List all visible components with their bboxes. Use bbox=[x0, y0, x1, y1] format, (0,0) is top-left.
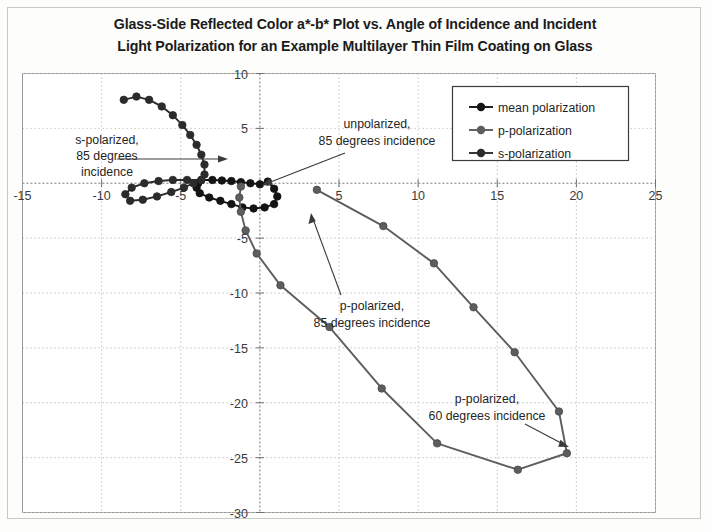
annotation-unpolarized-85-line2: 85 degrees incidence bbox=[319, 134, 436, 148]
data-point bbox=[168, 188, 176, 196]
chart-figure: Glass-Side Reflected Color a*-b* Plot vs… bbox=[0, 0, 712, 532]
data-point bbox=[205, 194, 213, 202]
data-point bbox=[179, 121, 187, 128]
x-tick-label: 20 bbox=[569, 189, 583, 203]
data-point bbox=[380, 222, 388, 230]
y-tick-label: -15 bbox=[230, 342, 248, 356]
data-point bbox=[237, 183, 245, 191]
data-point bbox=[253, 250, 261, 257]
x-tick-label: 15 bbox=[490, 189, 504, 203]
x-tick-label: 10 bbox=[411, 189, 425, 203]
y-tick-label: 5 bbox=[241, 122, 248, 136]
data-point bbox=[511, 349, 519, 357]
data-point bbox=[270, 200, 278, 208]
annotation-s-pol-85-line1: s-polarized, bbox=[75, 133, 139, 147]
data-point bbox=[198, 151, 206, 159]
data-point bbox=[201, 161, 209, 169]
data-point bbox=[250, 205, 257, 213]
data-point bbox=[555, 408, 563, 416]
legend-marker-dot bbox=[477, 149, 485, 157]
data-point bbox=[190, 180, 198, 188]
data-point bbox=[122, 190, 130, 198]
data-point bbox=[261, 204, 269, 212]
legend-marker-dot bbox=[477, 126, 485, 134]
legend-marker-dot bbox=[477, 103, 485, 111]
data-point bbox=[133, 93, 141, 101]
data-point bbox=[228, 200, 236, 208]
data-point bbox=[313, 186, 321, 194]
data-point bbox=[169, 111, 177, 119]
y-tick-label: -25 bbox=[230, 452, 248, 466]
data-point bbox=[563, 449, 571, 457]
legend-label: s-polarization bbox=[498, 147, 571, 161]
data-point bbox=[470, 304, 478, 312]
data-point bbox=[141, 180, 149, 188]
data-point bbox=[169, 176, 177, 184]
annotation-p-pol-60-line2: 60 degrees incidence bbox=[429, 409, 546, 423]
data-point bbox=[277, 282, 285, 290]
data-point bbox=[237, 208, 245, 216]
data-point bbox=[242, 227, 250, 235]
data-point bbox=[274, 193, 282, 201]
data-point bbox=[209, 176, 217, 184]
legend-label: p-polarization bbox=[498, 124, 572, 138]
data-point bbox=[120, 96, 128, 104]
annotation-p-pol-85-line2: 85 degrees incidence bbox=[314, 316, 431, 330]
y-tick-label: -10 bbox=[230, 287, 248, 301]
data-point bbox=[236, 194, 244, 202]
y-tick-label: -20 bbox=[230, 397, 248, 411]
data-point bbox=[218, 177, 226, 185]
legend-label: mean polarization bbox=[498, 101, 595, 115]
chart-legend: mean polarizationp-polarizations-polariz… bbox=[453, 87, 629, 161]
data-point bbox=[186, 131, 194, 139]
annotation-unpolarized-85-line1: unpolarized, bbox=[344, 117, 411, 131]
data-point bbox=[128, 184, 136, 192]
data-point bbox=[193, 141, 201, 149]
data-point bbox=[378, 385, 386, 393]
data-point bbox=[217, 197, 225, 205]
data-point bbox=[430, 260, 438, 268]
data-point bbox=[228, 177, 236, 185]
data-point bbox=[139, 196, 147, 204]
data-point bbox=[180, 184, 188, 192]
data-point bbox=[256, 181, 264, 189]
data-point bbox=[158, 103, 166, 111]
data-point bbox=[247, 180, 255, 188]
data-point bbox=[126, 197, 134, 205]
data-point bbox=[433, 440, 441, 448]
y-tick-label: -30 bbox=[230, 507, 248, 521]
data-point bbox=[145, 96, 153, 104]
data-point bbox=[155, 177, 163, 185]
y-tick-label: 10 bbox=[234, 68, 248, 82]
x-tick-label: 25 bbox=[649, 189, 663, 203]
annotation-s-pol-85-line2: 85 degrees bbox=[76, 149, 138, 163]
data-point bbox=[514, 466, 522, 474]
data-point bbox=[198, 176, 206, 184]
data-point bbox=[270, 185, 278, 193]
plot-area: -15-10-5510152025-30-25-20-15-10-5510 s-… bbox=[0, 0, 712, 532]
x-tick-label: -10 bbox=[93, 189, 111, 203]
annotation-p-pol-85-line1: p-polarized, bbox=[340, 299, 404, 313]
x-tick-label: -15 bbox=[13, 189, 31, 203]
annotation-s-pol-85-line3: incidence bbox=[81, 165, 133, 179]
data-point bbox=[153, 193, 161, 201]
annotation-p-pol-60-line1: p-polarized, bbox=[455, 392, 519, 406]
